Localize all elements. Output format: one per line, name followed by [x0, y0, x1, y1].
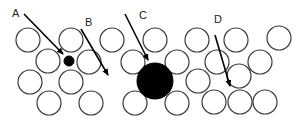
- lattice-atom: [59, 28, 83, 52]
- lattice-atom: [37, 91, 61, 115]
- lattice-canvas: [0, 0, 307, 126]
- lattice-atom: [143, 28, 167, 52]
- lattice-atom: [100, 28, 124, 52]
- lattice-atom: [186, 69, 210, 93]
- lattice-atom: [224, 28, 248, 52]
- label-c: C: [139, 10, 147, 21]
- lattice-atom: [16, 28, 40, 52]
- lattice-atom: [77, 50, 101, 74]
- lattice-atom: [253, 90, 277, 114]
- large-substitutional-atom: [137, 63, 173, 99]
- lattice-atom: [18, 70, 42, 94]
- lattice-atom: [59, 70, 83, 94]
- lattice-atom: [185, 28, 209, 52]
- lattice-defect-diagram: A B C D: [0, 0, 307, 126]
- lattice-atom: [165, 91, 189, 115]
- lattice-atom: [228, 90, 252, 114]
- lattice-atom: [202, 90, 226, 114]
- lattice-atom: [79, 91, 103, 115]
- label-d: D: [214, 14, 222, 25]
- lattice-atom: [227, 64, 251, 88]
- lattice-atom: [36, 49, 60, 73]
- small-interstitial-atom: [64, 56, 74, 66]
- label-b: B: [85, 17, 92, 28]
- lattice-atom: [248, 50, 272, 74]
- label-a: A: [12, 8, 19, 19]
- lattice-atom: [267, 26, 291, 50]
